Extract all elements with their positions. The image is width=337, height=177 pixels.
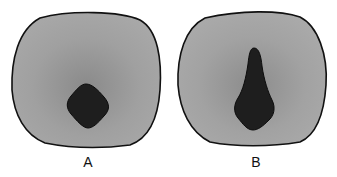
panel-label-a: A <box>83 154 92 170</box>
figure-canvas <box>0 0 337 177</box>
panel-label-b: B <box>251 154 260 170</box>
panel-b <box>178 12 326 146</box>
panel-a <box>12 13 161 148</box>
